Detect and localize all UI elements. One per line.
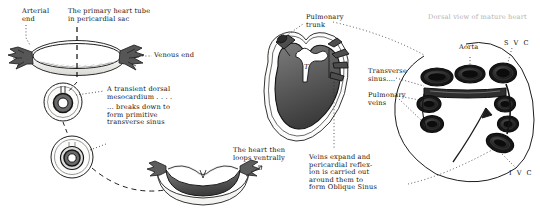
leader-trunk-to-mature [333,22,424,55]
panel-primitive-heart-tube [8,25,152,80]
label-svc: S V C [504,40,530,48]
leader-arterial-end [26,25,30,45]
label-transverse-sinus: Transverse sinus.... [368,68,407,83]
diagram-artwork [0,0,540,213]
label-transverse-sinus-marker: T [304,64,309,72]
looped-arterial-vessels [147,161,166,176]
pulmonary-vein-cross-sections [417,96,444,133]
tube-lumen-2 [68,154,76,162]
panel-cross-section-sinus [51,122,165,191]
venous-end-vessels [119,45,144,70]
panel-mature-heart [395,43,534,185]
oblique-sinus-arrow-head [482,108,492,118]
right-vessel-cross-sections [484,96,519,156]
anatomy-diagram: Arterial end The primary heart tube in p… [0,0,540,213]
oblique-sinus-arrow-shaft [453,108,486,162]
panel-looped-heart [264,22,424,148]
panel-looped-tube [147,160,262,205]
label-heart-loops-ventrally: The heart then loops ventrally [233,147,285,162]
label-pulmonary-trunk: Pulmonary trunk [306,14,344,29]
label-ivc: I V C [509,170,533,178]
label-transient-dorsal-mesocardium: A transient dorsal mesocardium . . . . [107,86,172,101]
looped-lumen-highlight [168,166,238,175]
label-arterial-end: Arterial end [22,8,49,23]
label-venous-end: Venous end [154,52,194,60]
label-aorta: Aorta [459,44,478,52]
arterial-end-vessels [8,47,33,69]
panel-cross-section-mesocardium [44,82,104,121]
leader-ivc [500,152,516,168]
transition-arrow-2 [63,122,68,135]
label-pulmonary-veins: Pulmonary veins [368,92,406,107]
label-breaks-down-transverse-sinus: ... breaks down to form primitive transv… [107,104,170,127]
great-vessel-cross-sections [421,63,517,86]
tube-lumen [58,98,68,108]
label-dorsal-view-of-mature-heart: Dorsal view of mature heart [428,14,527,22]
label-primary-heart-tube: The primary heart tube in pericardial sa… [68,8,150,23]
mature-pericardial-boundary [395,43,534,182]
label-oblique-sinus: Veins expand and pericardial reflex- ion… [309,154,377,192]
leader-transverse-sinus-primitive [90,144,106,150]
